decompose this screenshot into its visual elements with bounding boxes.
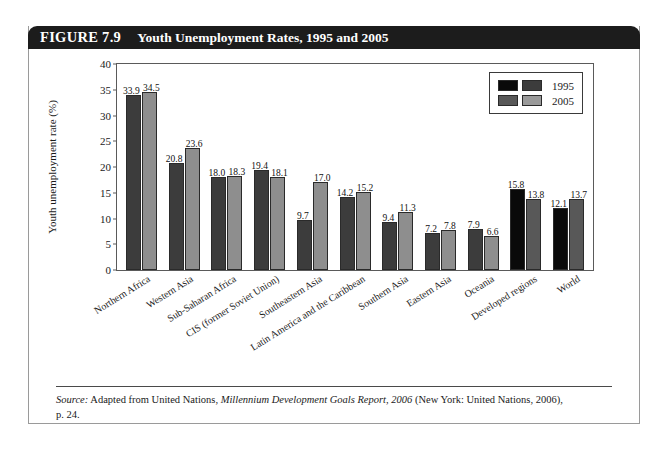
bar-value-label: 33.9 <box>123 86 140 96</box>
bar-2005: 34.5 <box>142 92 157 270</box>
legend-swatch <box>522 95 542 106</box>
bar-value-label: 11.3 <box>400 203 416 213</box>
bar-value-label: 13.7 <box>570 190 587 200</box>
figure-title-bar: FIGURE 7.9 Youth Unemployment Rates, 199… <box>28 26 640 49</box>
source-divider <box>56 386 612 387</box>
bar-value-label: 9.7 <box>297 211 309 221</box>
bar-value-label: 18.1 <box>271 168 288 178</box>
legend-swatch <box>498 95 518 106</box>
bar-value-label: 17.0 <box>314 173 331 183</box>
legend-label: 1995 <box>552 80 574 92</box>
bar-value-label: 20.8 <box>166 154 183 164</box>
x-axis-labels: Northern AfricaWestern AsiaSub-Saharan A… <box>116 273 594 373</box>
y-axis-label: Youth unemployment rate (%) <box>46 77 58 257</box>
bar-value-label: 18.3 <box>229 167 246 177</box>
bar-2005: 13.8 <box>526 199 541 270</box>
bar-value-label: 15.2 <box>357 183 374 193</box>
bar-value-label: 18.0 <box>209 168 226 178</box>
x-axis-tick-label-text: Oceania <box>462 273 496 300</box>
legend-label: 2005 <box>552 95 574 107</box>
bar-group: 18.018.3 <box>205 64 248 270</box>
chart-legend: 19952005 <box>489 72 583 114</box>
bar-value-label: 14.2 <box>337 188 354 198</box>
bar-value-label: 19.4 <box>251 161 268 171</box>
source-note: Source: Adapted from United Nations, Mil… <box>56 392 622 422</box>
bar-value-label: 9.4 <box>382 213 394 223</box>
source-page: p. 24. <box>56 409 80 420</box>
x-axis-tick-label-text: Northern Africa <box>93 273 153 316</box>
legend-swatch <box>522 80 542 91</box>
bar-value-label: 6.6 <box>487 227 499 237</box>
bar-value-label: 15.8 <box>508 180 525 190</box>
bar-1995: 33.9 <box>126 95 141 270</box>
source-publication-title: Millennium Development Goals Report, 200… <box>221 394 413 405</box>
chart-region: Youth unemployment rate (%) 051015202530… <box>28 49 640 379</box>
figure-title: Youth Unemployment Rates, 1995 and 2005 <box>137 30 388 46</box>
legend-swatch <box>498 80 518 91</box>
bar-value-label: 23.6 <box>186 139 203 149</box>
bar-value-label: 13.8 <box>528 190 545 200</box>
legend-entry: 1995 <box>498 78 574 93</box>
figure-number-label: FIGURE 7.9 <box>40 29 121 46</box>
source-text-part1: Adapted from United Nations, <box>88 394 220 405</box>
x-axis-tick-label-text: World <box>555 273 582 295</box>
source-prefix: Source: <box>56 394 88 405</box>
plot-area: 0510152025303540 33.934.520.823.618.018.… <box>116 63 594 271</box>
bar-value-label: 7.9 <box>468 220 480 230</box>
legend-entry: 2005 <box>498 93 574 108</box>
bar-value-label: 12.1 <box>550 199 567 209</box>
source-text-part2: (New York: United Nations, 2006), <box>412 394 563 405</box>
bar-group: 33.934.5 <box>120 64 163 270</box>
bar-value-label: 34.5 <box>143 83 160 93</box>
